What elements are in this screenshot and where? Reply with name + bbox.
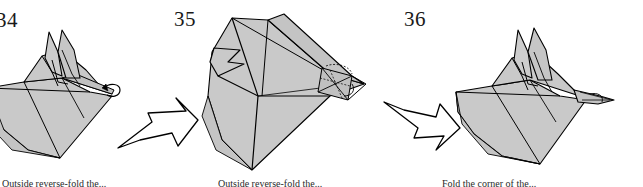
step-caption-36: Fold the corner of the...: [442, 178, 612, 187]
figure-36-beak-tip: [574, 90, 614, 104]
origami-instruction-diagram: 34: [0, 0, 643, 187]
figure-36-shapes: [456, 28, 614, 164]
origami-figure-36: [0, 0, 643, 187]
